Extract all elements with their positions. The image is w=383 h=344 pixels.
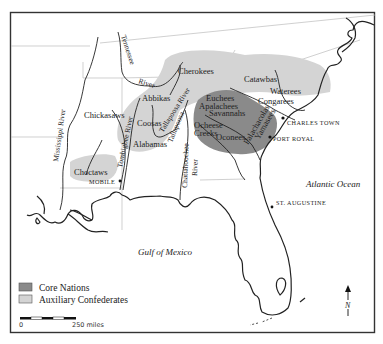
label-mobile: Mobile [89, 178, 115, 185]
scale-segment [31, 317, 42, 320]
label-creeks: Creeks [194, 128, 218, 138]
label-gulf-of-mexico: Gulf of Mexico [138, 247, 192, 257]
map: Cherokees Catawbas Waterees Congarees Eu… [0, 0, 383, 344]
scale-end-label: 250 miles [72, 321, 104, 329]
label-cherokees: Cherokees [178, 66, 214, 76]
city-dot-charles-town [281, 116, 284, 119]
legend-label-auxiliary: Auxiliary Confederates [39, 295, 128, 305]
scale-segment [20, 317, 31, 320]
label-chattahoochee: Chattahoochee [180, 143, 191, 189]
scale-segment [53, 317, 64, 320]
legend-label-core: Core Nations [39, 283, 90, 293]
city-dot-st-augustine [271, 206, 274, 209]
legend-swatch-core [19, 283, 32, 291]
label-charles-town: Charles Town [287, 119, 340, 126]
label-atlantic-ocean: Atlantic Ocean [305, 179, 361, 189]
north-label: N [344, 301, 351, 310]
city-dot-port-royal [268, 135, 271, 138]
label-chickasaws: Chickasaws [84, 110, 125, 120]
label-catawbas: Catawbas [244, 74, 277, 84]
label-st-augustine: St. Augustine [276, 199, 326, 206]
label-chattahoochee-river: River [190, 159, 200, 176]
label-savannahs: Savannahs [209, 108, 245, 118]
label-port-royal: Port Royal [273, 135, 315, 142]
scale-start-label: 0 [19, 321, 23, 329]
label-abbikas: Abbikas [142, 93, 170, 103]
scale-segment [64, 317, 76, 320]
legend-swatch-auxiliary [19, 295, 32, 303]
city-dot-mobile [119, 180, 122, 183]
label-alabamas: Alabamas [133, 139, 167, 149]
scale-segment [42, 317, 53, 320]
label-waterees: Waterees [270, 86, 301, 96]
label-choctaws: Choctaws [74, 167, 108, 177]
